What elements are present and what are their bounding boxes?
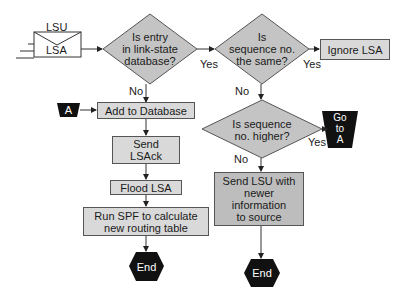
- goto-line-2: to: [322, 123, 358, 134]
- d2-no-label: No: [235, 85, 249, 97]
- send-lsu-line-4: to source: [236, 211, 281, 223]
- flood-lsa-box: Flood LSA: [110, 180, 182, 195]
- send-lsack-line-1: Send: [133, 138, 159, 150]
- d3-no-label: No: [234, 153, 248, 165]
- send-lsu-line-2: newer: [244, 187, 274, 199]
- input-lines: [16, 44, 34, 58]
- decision-3-line-2: no. higher?: [222, 130, 302, 142]
- run-spf-box: Run SPF to calculate new routing table: [83, 207, 209, 236]
- end-2-label: End: [244, 267, 280, 279]
- goto-a-label: Go to A: [322, 112, 358, 145]
- send-lsu-box: Send LSU with newer information to sourc…: [214, 172, 304, 226]
- decision-1-line-1: Is entry: [110, 31, 190, 43]
- send-lsack-box: Send LSAck: [112, 136, 180, 164]
- send-lsu-line-3: information: [232, 199, 286, 211]
- end-1-label: End: [129, 261, 164, 273]
- ignore-lsa-box: Ignore LSA: [320, 39, 390, 60]
- decision-3-text: Is sequence no. higher?: [222, 118, 302, 142]
- decision-2-line-3: the same?: [222, 55, 302, 67]
- send-lsu-line-1: Send LSU with: [223, 175, 296, 187]
- decision-1-line-2: in link-state: [110, 43, 190, 55]
- run-spf-line-1: Run SPF to calculate: [94, 210, 197, 222]
- send-lsack-line-2: LSAck: [130, 150, 162, 162]
- decision-1-text: Is entry in link-state database?: [110, 31, 190, 67]
- decision-2-line-1: Is: [222, 31, 302, 43]
- decision-3-line-1: Is sequence: [222, 118, 302, 130]
- d1-no-label: No: [129, 85, 143, 97]
- goto-line-3: A: [322, 134, 358, 145]
- goto-line-1: Go: [322, 112, 358, 123]
- connector-a-label: A: [57, 104, 80, 116]
- d2-yes-label: Yes: [303, 58, 321, 70]
- decision-1-line-3: database?: [110, 55, 190, 67]
- add-to-database-box: Add to Database: [97, 102, 195, 119]
- d3-yes-label: Yes: [308, 136, 326, 148]
- envelope-body-label: LSA: [46, 44, 67, 56]
- envelope-top-label: LSU: [46, 21, 67, 33]
- run-spf-line-2: new routing table: [104, 222, 188, 234]
- d1-yes-label: Yes: [200, 58, 218, 70]
- decision-2-line-2: sequence no.: [222, 43, 302, 55]
- decision-2-text: Is sequence no. the same?: [222, 31, 302, 67]
